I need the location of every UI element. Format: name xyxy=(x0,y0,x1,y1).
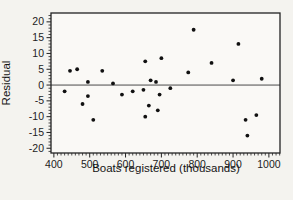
data-point xyxy=(143,59,147,63)
y-tick-label: 5 xyxy=(38,63,44,75)
residual-plot-figure: 20151050-5-10-15-20400500600700800900100… xyxy=(0,0,293,200)
x-axis-title: Boats registered (thousands) xyxy=(92,162,240,174)
data-point xyxy=(142,88,146,92)
data-point xyxy=(244,118,248,122)
data-point xyxy=(81,102,85,106)
data-point xyxy=(254,113,258,117)
data-point xyxy=(100,69,104,73)
data-point xyxy=(156,108,160,112)
data-point xyxy=(111,82,115,86)
data-point xyxy=(91,118,95,122)
data-point xyxy=(192,28,196,32)
data-point xyxy=(154,80,158,84)
data-point xyxy=(147,104,151,108)
data-point xyxy=(231,78,235,82)
data-point xyxy=(86,80,90,84)
data-point xyxy=(159,56,163,60)
data-point xyxy=(120,93,124,97)
residual-scatter-plot: 20151050-5-10-15-20400500600700800900100… xyxy=(0,0,293,200)
y-tick-label: -10 xyxy=(29,110,44,122)
y-tick-label: -15 xyxy=(29,126,44,138)
data-point xyxy=(63,89,67,93)
data-point xyxy=(143,115,147,119)
data-point xyxy=(237,42,241,46)
data-point xyxy=(131,89,135,93)
y-tick-label: -20 xyxy=(29,142,44,154)
y-tick-label: 20 xyxy=(32,15,44,27)
data-point xyxy=(75,67,79,71)
y-tick-label: 15 xyxy=(32,31,44,43)
x-tick-label: 400 xyxy=(45,158,63,170)
y-tick-label: 10 xyxy=(32,47,44,59)
data-point xyxy=(149,78,153,82)
data-point xyxy=(260,77,264,81)
plot-area xyxy=(51,13,280,153)
data-point xyxy=(186,71,190,75)
data-point xyxy=(86,94,90,98)
data-point xyxy=(168,86,172,90)
x-tick-label: 1000 xyxy=(257,158,281,170)
data-point xyxy=(210,61,214,65)
data-point xyxy=(245,134,249,138)
y-axis-title: Residual xyxy=(0,61,12,106)
data-point xyxy=(68,69,72,73)
y-tick-label: -5 xyxy=(35,94,44,106)
data-point xyxy=(158,93,162,97)
y-tick-label: 0 xyxy=(38,79,44,91)
